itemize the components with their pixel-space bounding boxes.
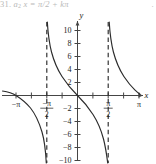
y-label-n8: −8 bbox=[63, 143, 72, 152]
x-label-minus-pi-2-numerator: −π bbox=[43, 99, 52, 108]
x-axis-label: x bbox=[144, 90, 149, 100]
x-label-minus-pi: −π bbox=[12, 100, 21, 109]
y-label-8: 8 bbox=[68, 39, 72, 48]
y-axis-arrow bbox=[76, 21, 80, 26]
y-label-n2: −2 bbox=[63, 104, 72, 113]
y-label-6: 6 bbox=[68, 52, 72, 61]
curve-branch-right bbox=[109, 22, 140, 94]
x-label-pi-2-denominator: 2 bbox=[106, 110, 110, 119]
curve-branch-far-left bbox=[3, 91, 47, 163]
y-label-n10: −10 bbox=[59, 156, 72, 164]
y-label-4: 4 bbox=[68, 65, 72, 74]
x-label-minus-pi-2: −π 2 bbox=[40, 99, 53, 119]
x-label-pi: π bbox=[137, 100, 141, 109]
y-label-2: 2 bbox=[68, 78, 72, 87]
y-label-10: 10 bbox=[64, 26, 72, 35]
figure-canvas: 31. a2 x = π/2 + kπ . bbox=[0, 0, 156, 164]
y-label-n4: −4 bbox=[63, 117, 72, 126]
y-label-n6: −6 bbox=[63, 130, 72, 139]
graph-svg: x y −π π −π 2 π 2 10 8 6 4 2 −2 −4 −6 −8… bbox=[0, 0, 156, 164]
x-label-minus-pi-2-denominator: 2 bbox=[45, 110, 49, 119]
y-axis-label: y bbox=[79, 10, 84, 20]
x-label-pi-2-numerator: π bbox=[106, 99, 110, 108]
x-label-pi-2: π 2 bbox=[104, 99, 113, 119]
